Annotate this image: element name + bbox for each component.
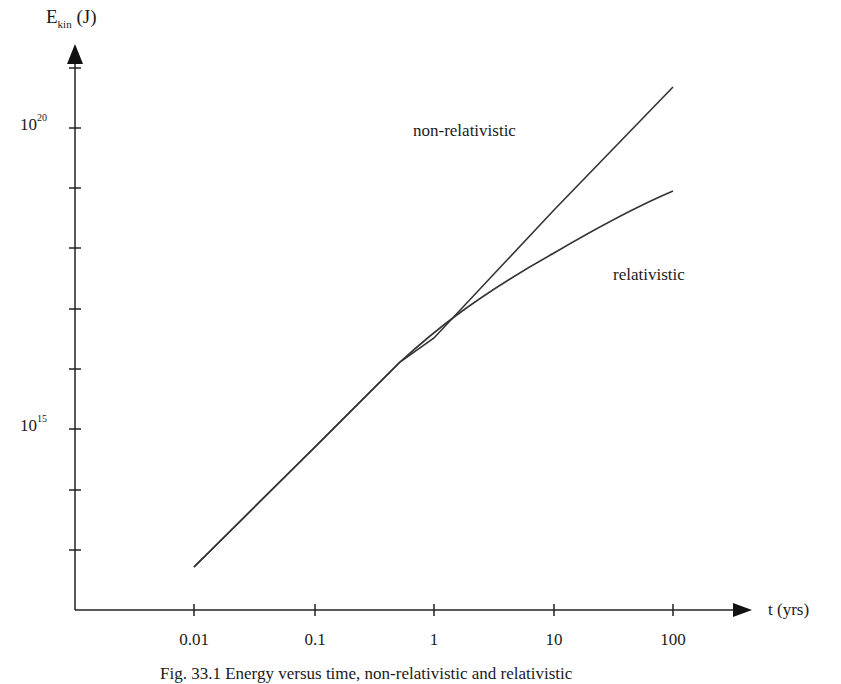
y-tick-label-1e20: 1020	[20, 112, 47, 135]
relativistic-curve	[194, 191, 673, 567]
x-axis-arrow-icon	[733, 603, 752, 617]
x-axis-label: t (yrs)	[768, 600, 809, 620]
y-axis-label: Ekin (J)	[46, 6, 96, 30]
x-tick-label-100: 100	[660, 630, 686, 650]
x-tick-label-1: 1	[430, 630, 439, 650]
relativistic-label: relativistic	[613, 265, 685, 285]
x-tick-label-0.01: 0.01	[179, 630, 209, 650]
y-tick-label-1e15: 1015	[20, 413, 47, 436]
figure-caption: Fig. 33.1 Energy versus time, non-relati…	[160, 664, 572, 684]
non-relativistic-label: non-relativistic	[413, 121, 516, 141]
x-tick-label-0.1: 0.1	[304, 630, 325, 650]
x-tick-label-10: 10	[546, 630, 563, 650]
y-axis-arrow-icon	[67, 44, 83, 64]
